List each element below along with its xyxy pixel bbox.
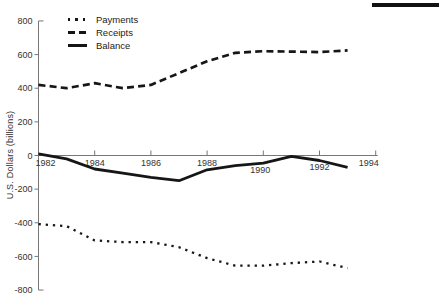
svg-text:-200: -200 (14, 184, 32, 194)
svg-text:800: 800 (17, 16, 32, 26)
series-payments (39, 224, 348, 268)
svg-text:-600: -600 (14, 252, 32, 262)
svg-text:200: 200 (17, 117, 32, 127)
svg-text:400: 400 (17, 83, 32, 93)
svg-text:1986: 1986 (141, 158, 161, 168)
svg-text:-800: -800 (14, 285, 32, 295)
svg-text:1988: 1988 (197, 158, 217, 168)
plot-area: 8006004002000-200-400-600-80019821984198… (0, 0, 439, 307)
series-receipts (39, 50, 348, 88)
svg-text:1982: 1982 (35, 158, 55, 168)
svg-text:600: 600 (17, 50, 32, 60)
chart: U.S. Dollars (billions) Payments Receipt… (0, 0, 439, 307)
svg-text:1990: 1990 (250, 165, 270, 175)
svg-text:1994: 1994 (359, 158, 379, 168)
svg-text:-400: -400 (14, 218, 32, 228)
svg-text:0: 0 (27, 151, 32, 161)
